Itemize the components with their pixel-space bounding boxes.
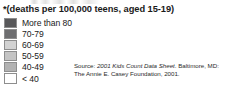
legend-label-50-59: 50-59: [22, 51, 44, 61]
legend-swatch-less-than-40: [4, 73, 17, 83]
legend-item-50-59: 50-59: [4, 51, 114, 62]
legend-label-60-69: 60-69: [22, 40, 44, 50]
source-place: . Baltimore, MD:: [175, 62, 219, 69]
legend-label-70-79: 70-79: [22, 29, 44, 39]
legend-item-more-than-80: More than 80: [4, 17, 114, 28]
legend-swatch-more-than-80: [4, 18, 17, 28]
legend-swatch-50-59: [4, 51, 17, 61]
legend-label-less-than-40: < 40: [22, 74, 39, 84]
legend-label-more-than-80: More than 80: [22, 18, 72, 28]
source-note-line-2: The Annie E. Casey Foundation, 2001.: [74, 70, 231, 78]
legend-item-70-79: 70-79: [4, 28, 114, 39]
legend-swatch-60-69: [4, 40, 17, 50]
source-note: Source: 2001 Kids Count Data Sheet. Balt…: [74, 62, 231, 78]
legend-swatch-40-49: [4, 62, 17, 72]
legend-swatch-70-79: [4, 29, 17, 39]
source-note-line-1: Source: 2001 Kids Count Data Sheet. Balt…: [74, 62, 231, 70]
legend-title: *(deaths per 100,000 teens, aged 15-19): [3, 4, 174, 15]
legend-item-60-69: 60-69: [4, 39, 114, 50]
legend-label-40-49: 40-49: [22, 62, 44, 72]
source-publication-title: 2001 Kids Count Data Sheet: [97, 62, 175, 69]
source-prefix: Source:: [74, 62, 97, 69]
